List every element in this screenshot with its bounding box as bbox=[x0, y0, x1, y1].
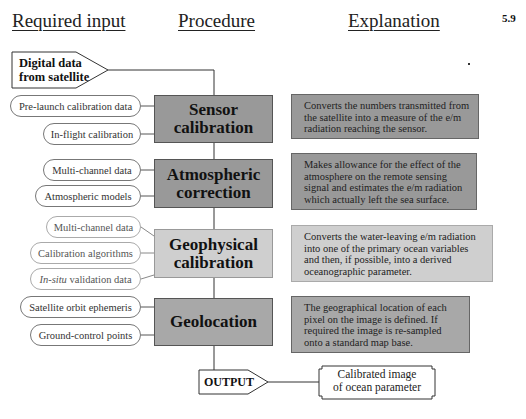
step-title-line2: calibration bbox=[174, 118, 253, 137]
explanation-sensor-calibration: Converts the numbers transmitted from th… bbox=[291, 94, 479, 139]
start-label-line2: from satellite bbox=[19, 70, 89, 84]
output-result: Calibrated image of ocean parameter bbox=[319, 368, 435, 394]
output-label: OUTPUT bbox=[204, 375, 254, 389]
input-multi-channel-data-2: Multi-channel data bbox=[46, 216, 141, 238]
result-line1: Calibrated image bbox=[319, 368, 435, 381]
start-label-line1: Digital data bbox=[19, 56, 89, 70]
input-multi-channel-data: Multi-channel data bbox=[43, 159, 141, 181]
input-satellite-orbit-ephemeris: Satellite orbit ephemeris bbox=[20, 296, 141, 318]
input-in-flight-calibration: In-flight calibration bbox=[43, 123, 141, 145]
validation-data-text: validation data bbox=[67, 274, 132, 285]
step-title-line1: Atmospheric bbox=[167, 165, 260, 184]
procedure-geolocation: Geolocation bbox=[154, 298, 273, 346]
input-calibration-algorithms: Calibration algorithms bbox=[30, 242, 141, 264]
start-node-label: Digital data from satellite bbox=[19, 56, 89, 84]
explanation-atmospheric-correction: Makes allowance for the effect of the at… bbox=[291, 153, 477, 210]
step-title-line1: Geolocation bbox=[170, 312, 257, 331]
step-title-line2: calibration bbox=[174, 253, 253, 272]
input-atmospheric-models: Atmospheric models bbox=[35, 185, 141, 207]
result-line2: of ocean parameter bbox=[319, 381, 435, 394]
step-title-line2: correction bbox=[176, 183, 250, 202]
in-situ-italic: In-situ bbox=[39, 274, 66, 285]
explanation-geophysical-calibration: Converts the water-leaving e/m radiation… bbox=[291, 225, 493, 282]
explanation-geolocation: The geographical location of each pixel … bbox=[291, 296, 470, 353]
input-pre-launch-calibration: Pre-launch calibration data bbox=[10, 95, 141, 117]
step-title-line1: Sensor bbox=[189, 100, 238, 119]
procedure-geophysical-calibration: Geophysicalcalibration bbox=[154, 229, 273, 278]
input-in-situ-validation-data: In-situ validation data bbox=[30, 268, 141, 290]
procedure-atmospheric-correction: Atmosphericcorrection bbox=[154, 159, 273, 208]
procedure-sensor-calibration: Sensorcalibration bbox=[154, 95, 273, 143]
step-title-line1: Geophysical bbox=[169, 235, 258, 254]
input-ground-control-points: Ground-control points bbox=[30, 324, 141, 346]
